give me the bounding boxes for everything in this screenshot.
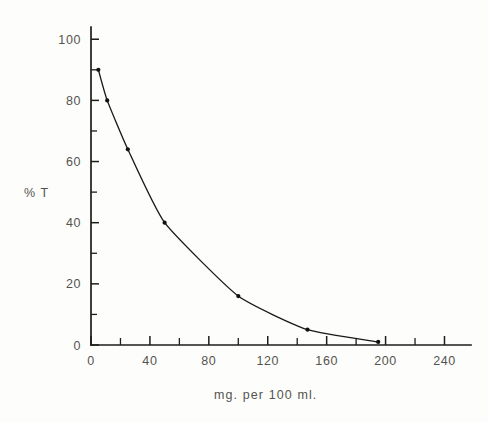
data-point-marker <box>96 68 100 72</box>
y-tick-label: 80 <box>66 94 81 108</box>
y-tick-label: 60 <box>66 155 81 169</box>
y-tick-label: 0 <box>73 339 81 353</box>
x-tick-label: 240 <box>433 354 456 368</box>
y-tick-label: 40 <box>66 216 81 230</box>
data-point-marker <box>305 328 309 332</box>
data-point-marker <box>236 294 240 298</box>
data-point-marker <box>376 340 380 344</box>
x-tick-label: 0 <box>87 354 95 368</box>
x-tick-label: 120 <box>256 354 279 368</box>
x-tick-label: 80 <box>201 354 216 368</box>
y-axis-title: % T <box>24 186 49 200</box>
x-axis-title: mg. per 100 ml. <box>214 388 317 402</box>
x-tick-label: 40 <box>142 354 157 368</box>
data-point-marker <box>126 147 130 151</box>
data-point-marker <box>105 98 109 102</box>
figure-background <box>0 0 488 422</box>
chart-figure: 020406080100 04080120160200240 % T mg. p… <box>0 0 488 422</box>
x-tick-label: 200 <box>374 354 397 368</box>
y-tick-label: 100 <box>58 33 81 47</box>
x-tick-label: 160 <box>315 354 338 368</box>
data-point-marker <box>163 221 167 225</box>
y-tick-label: 20 <box>66 277 81 291</box>
